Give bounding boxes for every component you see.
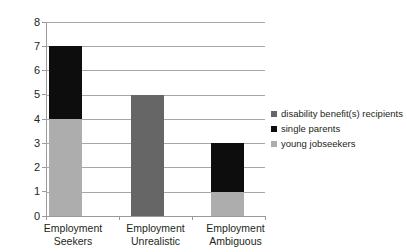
legend-swatch-icon bbox=[271, 141, 277, 147]
bar-segment bbox=[49, 119, 82, 216]
x-tick-mark bbox=[46, 216, 47, 220]
y-axis-tick-label: 1 bbox=[4, 186, 40, 197]
y-axis-tick-label: 0 bbox=[4, 211, 40, 222]
legend-swatch-icon bbox=[271, 126, 277, 132]
y-axis-tick-label: 8 bbox=[4, 17, 40, 28]
y-axis-tick-label: 4 bbox=[4, 114, 40, 125]
x-axis-category-label-0: Employment Seekers bbox=[27, 222, 119, 247]
legend-label: disability benefit(s) recipients bbox=[281, 108, 403, 119]
bar-segment bbox=[131, 95, 164, 216]
x-tick-mark bbox=[192, 216, 193, 220]
legend-label: young jobseekers bbox=[281, 138, 355, 149]
legend-label: single parents bbox=[281, 123, 340, 134]
bar-employment-unrealistic bbox=[131, 22, 164, 216]
y-axis-tick-label: 7 bbox=[4, 41, 40, 52]
y-axis-tick-label: 3 bbox=[4, 138, 40, 149]
x-tick-mark bbox=[265, 216, 266, 220]
bar-segment bbox=[49, 46, 82, 119]
legend-item-disability-benefits-recipients: disability benefit(s) recipients bbox=[271, 106, 407, 121]
category-label-line: Ambiguous bbox=[188, 235, 283, 248]
category-label-line: Employment bbox=[188, 222, 283, 235]
x-axis-category-label-2: Employment Ambiguous bbox=[188, 222, 283, 247]
x-tick-mark bbox=[119, 216, 120, 220]
bar-employment-seekers bbox=[49, 22, 82, 216]
legend-swatch-icon bbox=[271, 111, 277, 117]
category-label-line: Seekers bbox=[27, 235, 119, 248]
stacked-bar-chart: 8 7 6 5 4 3 2 1 0 bbox=[0, 0, 407, 252]
y-axis-tick-label: 2 bbox=[4, 162, 40, 173]
y-axis-tick-label: 5 bbox=[4, 89, 40, 100]
plot-area bbox=[46, 22, 265, 216]
legend-item-single-parents: single parents bbox=[271, 121, 407, 136]
bar-segment bbox=[211, 192, 244, 216]
x-axis-baseline bbox=[46, 216, 265, 217]
bar-employment-ambiguous bbox=[211, 22, 244, 216]
bar-segment bbox=[211, 143, 244, 192]
chart-legend: disability benefit(s) recipients single … bbox=[271, 106, 407, 151]
category-label-line: Employment bbox=[27, 222, 119, 235]
legend-item-young-jobseekers: young jobseekers bbox=[271, 136, 407, 151]
y-axis-tick-label: 6 bbox=[4, 65, 40, 76]
